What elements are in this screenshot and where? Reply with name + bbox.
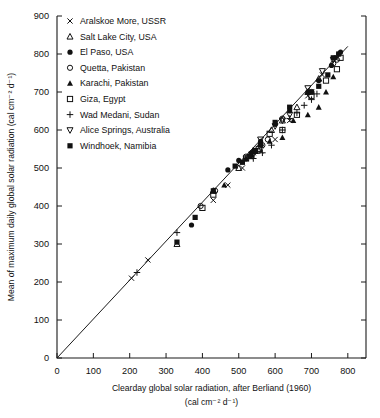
- y-tick-label: 600: [34, 125, 49, 135]
- x-tick-label: 600: [267, 366, 282, 376]
- x-axis-title: Clearday global solar radiation, after B…: [112, 383, 311, 393]
- x-tick-label: 100: [86, 366, 101, 376]
- x-axis-units: (cal cm⁻² d⁻¹): [185, 397, 239, 407]
- legend-label-0: Aralskoe More, USSR: [80, 16, 166, 26]
- data-point-marker: [193, 215, 198, 220]
- x-tick-label: 200: [122, 366, 137, 376]
- legend-label-6: Wad Medani, Sudan: [80, 110, 159, 120]
- data-point-marker: [334, 67, 339, 72]
- data-point-marker: [253, 148, 258, 153]
- x-tick-label: 0: [54, 366, 59, 376]
- data-point-marker: [67, 128, 73, 134]
- data-point-marker: [305, 112, 311, 118]
- data-point-marker: [67, 80, 73, 86]
- legend-label-4: Karachi, Pakistan: [80, 78, 149, 88]
- x-tick-label: 300: [158, 366, 173, 376]
- y-tick-label: 200: [34, 277, 49, 287]
- data-point-marker: [331, 55, 336, 60]
- y-tick-label: 500: [34, 163, 49, 173]
- data-point-marker: [287, 105, 292, 110]
- data-point-marker: [174, 240, 179, 245]
- scatter-plot-figure: 0100200300400500600700800900010020030040…: [0, 0, 380, 418]
- legend-label-8: Windhoek, Namibia: [80, 141, 156, 151]
- data-point-marker: [67, 33, 73, 39]
- data-point-marker: [240, 160, 245, 165]
- data-point-marker: [301, 102, 308, 109]
- data-point-marker: [145, 257, 150, 262]
- data-point-marker: [189, 222, 194, 227]
- data-point-marker: [316, 78, 321, 83]
- data-point-marker: [316, 104, 322, 110]
- data-point-marker: [279, 134, 285, 140]
- x-tick-label: 400: [195, 366, 210, 376]
- legend-label-5: Giza, Egypt: [80, 94, 126, 104]
- legend-label-1: Salt Lake City, USA: [80, 32, 157, 42]
- data-point-marker: [247, 154, 252, 159]
- data-point-marker: [67, 50, 72, 55]
- data-point-marker: [325, 72, 330, 77]
- data-point-marker: [336, 51, 341, 56]
- y-tick-label: 100: [34, 315, 49, 325]
- data-point-marker: [211, 188, 216, 193]
- y-tick-label: 300: [34, 239, 49, 249]
- legend-label-2: El Paso, USA: [80, 47, 133, 57]
- data-point-marker: [233, 164, 238, 169]
- y-tick-label: 0: [44, 353, 49, 363]
- legend-label-7: Alice Springs, Australia: [80, 125, 170, 135]
- y-tick-label: 400: [34, 201, 49, 211]
- data-point-marker: [221, 182, 227, 188]
- x-tick-label: 800: [340, 366, 355, 376]
- y-tick-label: 900: [34, 11, 49, 21]
- data-point-marker: [67, 143, 72, 148]
- data-point-marker: [129, 276, 134, 281]
- data-point-marker: [273, 137, 278, 142]
- data-point-marker: [67, 65, 72, 70]
- data-point-marker: [323, 89, 329, 95]
- chart-canvas: 0100200300400500600700800900010020030040…: [0, 0, 380, 418]
- data-point-marker: [67, 18, 72, 23]
- data-point-marker: [309, 89, 314, 94]
- data-point-marker: [330, 74, 336, 80]
- data-point-marker: [273, 120, 278, 125]
- data-point-marker: [323, 78, 328, 83]
- data-point-marker: [67, 96, 72, 101]
- legend-label-3: Quetta, Pakistan: [80, 63, 145, 73]
- data-point-marker: [174, 229, 181, 236]
- x-tick-label: 700: [304, 366, 319, 376]
- data-point-marker: [258, 143, 263, 148]
- data-point-marker: [294, 104, 300, 110]
- data-point-marker: [67, 111, 74, 118]
- data-point-marker: [316, 84, 321, 89]
- data-point-marker: [225, 167, 230, 172]
- y-axis-title: Mean of maximum daily global solar radia…: [6, 73, 16, 301]
- data-point-marker: [314, 91, 321, 98]
- y-tick-label: 800: [34, 49, 49, 59]
- x-tick-label: 500: [231, 366, 246, 376]
- data-point-marker: [211, 198, 216, 203]
- y-tick-label: 700: [34, 87, 49, 97]
